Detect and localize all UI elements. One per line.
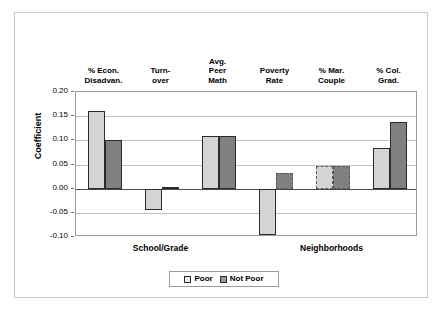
y-tick-label: 0.05: [22, 160, 68, 168]
bar-not-poor: [162, 187, 179, 189]
y-tick-label: 0.10: [22, 135, 68, 143]
y-tick-label: 0.00: [22, 184, 68, 192]
legend-item: Not Poor: [220, 275, 264, 283]
bar-not-poor: [333, 166, 350, 189]
y-tick-label: 0.15: [22, 111, 68, 119]
bar-not-poor: [219, 136, 236, 188]
legend-label: Poor: [194, 275, 212, 283]
legend-label: Not Poor: [230, 275, 264, 283]
gridline: [76, 237, 416, 238]
plot-area: [75, 91, 417, 236]
legend-item: Poor: [184, 275, 212, 283]
y-tick-label: 0.20: [22, 87, 68, 95]
bar-poor: [373, 148, 390, 189]
bar-poor: [145, 189, 162, 211]
y-tick-label: -0.10: [22, 232, 68, 240]
y-tick-mark: [71, 91, 74, 92]
bar-not-poor: [276, 173, 293, 189]
legend-swatch-icon: [184, 276, 191, 283]
y-tick-mark: [71, 139, 74, 140]
gridline: [76, 213, 416, 214]
bar-not-poor: [105, 140, 122, 189]
gridline: [76, 92, 416, 93]
y-tick-mark: [71, 115, 74, 116]
bar-poor: [202, 136, 219, 188]
y-tick-mark: [71, 164, 74, 165]
gridline: [76, 116, 416, 117]
bar-poor: [316, 166, 333, 189]
gridline: [76, 140, 416, 141]
group-label: School/Grade: [101, 243, 221, 253]
zero-line: [76, 189, 416, 190]
bar-poor: [259, 189, 276, 235]
chart-legend: PoorNot Poor: [169, 271, 279, 287]
bar-not-poor: [390, 122, 407, 188]
y-tick-mark: [71, 236, 74, 237]
bar-poor: [88, 111, 105, 188]
group-label: Neighborhoods: [272, 243, 392, 253]
y-tick-label: -0.05: [22, 208, 68, 216]
legend-swatch-icon: [220, 276, 227, 283]
category-label: % Col. Grad.: [353, 66, 424, 85]
gridline: [76, 165, 416, 166]
y-tick-mark: [71, 188, 74, 189]
y-tick-mark: [71, 212, 74, 213]
chart-canvas: Coefficient 0.200.150.100.050.00-0.05-0.…: [0, 0, 447, 314]
